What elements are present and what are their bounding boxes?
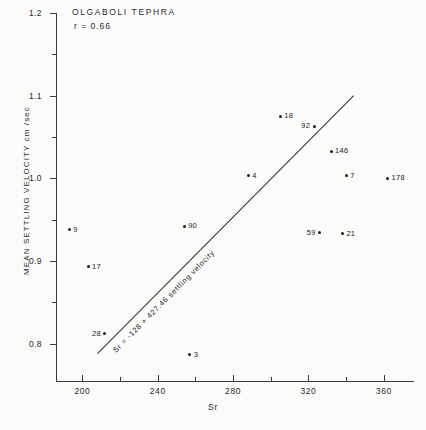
data-point-label: 17 — [92, 262, 101, 271]
data-point — [386, 177, 389, 180]
data-point-label: 4 — [252, 171, 256, 180]
data-point-label: 146 — [335, 146, 348, 155]
data-point-label: 3 — [194, 350, 198, 359]
data-point-label: 90 — [188, 221, 197, 230]
data-point-label: 178 — [392, 173, 405, 182]
data-point-label: 18 — [284, 111, 293, 120]
data-point-label: 9 — [73, 225, 77, 234]
data-point — [68, 228, 71, 231]
data-point — [313, 125, 316, 128]
data-point-label: 21 — [346, 229, 355, 238]
scatter-plot: 0.80.91.01.11.2200240280320360 OLGABOLI … — [0, 0, 426, 430]
data-point-label: 92 — [301, 121, 310, 130]
regression-line — [0, 0, 426, 430]
data-point-label: 28 — [92, 329, 101, 338]
data-point-label: 7 — [350, 171, 354, 180]
data-point — [183, 225, 186, 228]
data-point — [330, 150, 333, 153]
data-point-label: 59 — [307, 228, 316, 237]
data-point — [279, 115, 282, 118]
